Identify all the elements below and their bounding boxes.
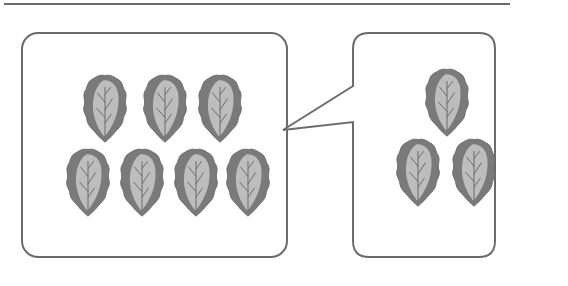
diagram-canvas [0,0,568,286]
left-group-box [22,33,287,257]
